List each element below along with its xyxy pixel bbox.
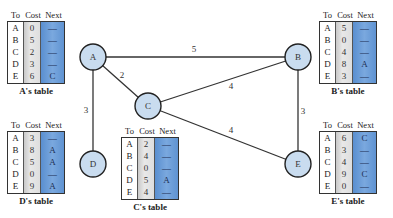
to-column: ABCDE (320, 22, 336, 83)
table-cell: 5 (24, 35, 40, 46)
table-body: ABCDE 24054 ———A— (121, 137, 179, 200)
header-to: To (121, 126, 138, 137)
table-cell: E (320, 71, 335, 82)
to-column: ABCDE (320, 132, 336, 193)
link-a-d: 3 (84, 57, 93, 164)
table-cell: D (320, 59, 335, 70)
table-cell: 4 (138, 151, 154, 162)
table-cell: — (353, 35, 376, 46)
link-cost-label: 5 (192, 44, 197, 54)
link-cost-label: 2 (120, 70, 125, 80)
table-body: ABCDE 63490 C——C— (319, 131, 377, 194)
table-cell: 5 (24, 157, 40, 168)
table-cell: B (8, 35, 23, 46)
table-header: To Cost Next (7, 120, 65, 131)
header-next: Next (354, 10, 377, 21)
table-cell: 8 (24, 145, 40, 156)
table-body: ABCDE 50483 ———A— (319, 21, 377, 84)
table-cell: 4 (336, 47, 352, 58)
table-cell: A (320, 133, 335, 144)
table-cell: 3 (24, 59, 40, 70)
table-cell: D (8, 59, 23, 70)
link-line (148, 57, 298, 106)
table-cell: E (122, 187, 137, 198)
next-column: ————C (41, 22, 64, 83)
table-cell: A (8, 23, 23, 34)
table-cell: B (320, 35, 335, 46)
table-cell: — (155, 187, 178, 198)
next-column: —AA—A (41, 132, 64, 193)
table-caption: A's table (7, 86, 65, 96)
table-cell: C (8, 157, 23, 168)
header-cost: Cost (138, 126, 156, 137)
cost-column: 24054 (138, 138, 155, 199)
table-cell: C (122, 163, 137, 174)
routing-table-c: To Cost Next ABCDE 24054 ———A— C's table (121, 126, 179, 212)
header-cost: Cost (24, 120, 42, 131)
table-cell: 3 (336, 71, 352, 82)
link-b-e: 3 (298, 57, 306, 164)
next-column: ———A— (353, 22, 376, 83)
table-cell: 0 (336, 35, 352, 46)
table-caption: C's table (121, 202, 179, 212)
table-cell: — (353, 181, 376, 192)
table-cell: 6 (336, 133, 352, 144)
table-cell: 3 (24, 133, 40, 144)
table-caption: E's table (319, 196, 377, 206)
node-label: A (90, 52, 97, 62)
table-cell: 8 (336, 59, 352, 70)
table-caption: D's table (7, 196, 65, 206)
table-cell: — (353, 145, 376, 156)
table-cell: 2 (24, 47, 40, 58)
header-to: To (7, 120, 24, 131)
table-header: To Cost Next (7, 10, 65, 21)
routing-table-b: To Cost Next ABCDE 50483 ———A— B's table (319, 10, 377, 96)
table-cell: E (8, 181, 23, 192)
to-column: ABCDE (8, 22, 24, 83)
table-cell: 9 (24, 181, 40, 192)
router-node-d: D (80, 151, 106, 177)
table-cell: — (41, 47, 64, 58)
table-cell: B (8, 145, 23, 156)
header-cost: Cost (24, 10, 42, 21)
table-cell: — (353, 71, 376, 82)
table-header: To Cost Next (319, 10, 377, 21)
header-next: Next (42, 120, 65, 131)
table-cell: 0 (336, 181, 352, 192)
routing-table-e: To Cost Next ABCDE 63490 C——C— E's table (319, 120, 377, 206)
table-cell: 0 (138, 163, 154, 174)
header-cost: Cost (336, 10, 354, 21)
table-cell: C (8, 47, 23, 58)
table-caption: B's table (319, 86, 377, 96)
to-column: ABCDE (8, 132, 24, 193)
to-column: ABCDE (122, 138, 138, 199)
table-cell: D (8, 169, 23, 180)
node-label: C (145, 101, 151, 111)
header-next: Next (42, 10, 65, 21)
table-cell: D (320, 169, 335, 180)
table-body: ABCDE 05236 ————C (7, 21, 65, 84)
routing-table-d: To Cost Next ABCDE 38509 —AA—A D's table (7, 120, 65, 206)
table-cell: — (155, 163, 178, 174)
table-cell: 9 (336, 169, 352, 180)
router-node-a: A (80, 44, 106, 70)
table-cell: B (320, 145, 335, 156)
table-cell: A (353, 59, 376, 70)
table-cell: 0 (24, 23, 40, 34)
node-label: D (90, 159, 97, 169)
table-cell: 0 (24, 169, 40, 180)
cost-column: 50483 (336, 22, 353, 83)
table-cell: B (122, 151, 137, 162)
table-cell: E (8, 71, 23, 82)
table-header: To Cost Next (121, 126, 179, 137)
table-cell: — (41, 35, 64, 46)
table-cell: A (41, 145, 64, 156)
header-cost: Cost (336, 120, 354, 131)
table-cell: C (320, 47, 335, 58)
header-next: Next (354, 120, 377, 131)
table-cell: 4 (138, 187, 154, 198)
routing-table-a: To Cost Next ABCDE 05236 ————C A's table (7, 10, 65, 96)
next-column: ———A— (155, 138, 178, 199)
router-node-b: B (285, 44, 311, 70)
table-cell: — (155, 139, 178, 150)
